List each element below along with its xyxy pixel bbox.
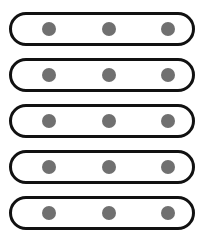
- dot: [102, 68, 116, 82]
- dot: [42, 22, 56, 36]
- dot: [161, 160, 175, 174]
- dot: [42, 206, 56, 220]
- capsule: [9, 196, 195, 230]
- dot: [161, 22, 175, 36]
- dot: [102, 160, 116, 174]
- capsule: [9, 150, 195, 184]
- capsule: [9, 104, 195, 138]
- dot: [161, 206, 175, 220]
- dot: [161, 68, 175, 82]
- dot: [42, 68, 56, 82]
- capsule: [9, 58, 195, 92]
- dot: [42, 160, 56, 174]
- capsule: [9, 12, 195, 46]
- dot: [102, 206, 116, 220]
- dot: [42, 114, 56, 128]
- dot: [102, 114, 116, 128]
- dot: [161, 114, 175, 128]
- dot: [102, 22, 116, 36]
